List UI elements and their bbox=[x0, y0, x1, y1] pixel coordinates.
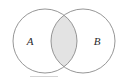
set-a-label: A bbox=[26, 35, 34, 47]
set-b-label: B bbox=[94, 35, 101, 47]
venn-diagram-figure: A B bbox=[0, 0, 127, 79]
venn-diagram-canvas: A B bbox=[0, 0, 127, 79]
